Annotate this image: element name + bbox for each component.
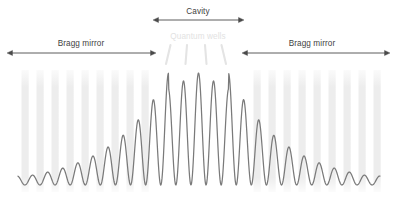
arrow-head <box>385 50 391 55</box>
arrow-bragg-mirror-right <box>242 50 390 55</box>
arrow-head <box>151 50 157 55</box>
arrow-head <box>242 50 248 55</box>
microcavity-diagram: CavityQuantum wellsBragg mirrorBragg mir… <box>0 0 396 197</box>
label-bragg-mirror-right: Bragg mirror <box>289 40 336 48</box>
arrow-cavity <box>153 17 244 22</box>
arrow-head <box>153 17 159 22</box>
arrow-head <box>239 17 245 22</box>
arrow-head <box>7 50 13 55</box>
annotation-arrows <box>0 0 396 197</box>
label-cavity: Cavity <box>186 8 209 16</box>
label-bragg-mirror-left: Bragg mirror <box>58 40 105 48</box>
arrow-bragg-mirror-left <box>7 50 156 55</box>
label-quantum-wells: Quantum wells <box>170 33 225 41</box>
